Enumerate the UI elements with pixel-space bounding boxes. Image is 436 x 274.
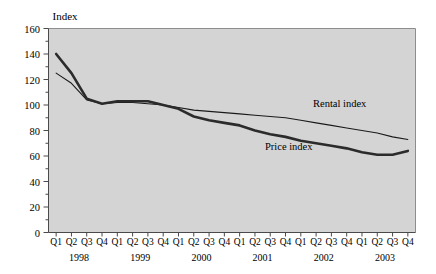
y-axis-tick-label: 160	[14, 23, 40, 34]
y-axis-tick-label: 20	[14, 202, 40, 213]
x-axis-quarter-label: Q1	[50, 237, 62, 247]
x-axis-quarter-label: Q3	[81, 237, 93, 247]
x-axis-quarter-label: Q3	[142, 237, 154, 247]
x-axis-quarter-label: Q4	[402, 237, 414, 247]
x-axis-quarter-label: Q1	[112, 237, 124, 247]
x-axis-quarter-label: Q2	[371, 237, 383, 247]
x-axis-quarter-label: Q2	[249, 237, 261, 247]
y-axis-ticks	[44, 29, 49, 233]
x-axis-quarter-label: Q3	[203, 237, 215, 247]
x-axis-quarter-label: Q4	[157, 237, 169, 247]
y-axis-tick-label: 100	[14, 100, 40, 111]
x-axis-quarter-label: Q4	[96, 237, 108, 247]
x-axis-quarter-label: Q2	[127, 237, 139, 247]
y-axis-tick-label: 60	[14, 151, 40, 162]
x-axis-quarter-label: Q1	[234, 237, 246, 247]
x-axis-quarter-label: Q2	[66, 237, 78, 247]
x-axis-quarter-label: Q4	[280, 237, 292, 247]
x-axis-quarter-label: Q2	[310, 237, 322, 247]
x-axis-year-label: 1999	[130, 252, 150, 263]
y-axis-tick-label: 80	[14, 125, 40, 136]
x-axis-quarter-label: Q3	[387, 237, 399, 247]
series-label-rental-index: Rental index	[313, 98, 366, 109]
x-axis-quarter-label: Q3	[264, 237, 276, 247]
x-axis-year-label: 2001	[253, 252, 273, 263]
x-axis-quarter-label: Q3	[326, 237, 338, 247]
x-axis-quarter-label: Q4	[341, 237, 353, 247]
x-axis-year-label: 2003	[375, 252, 395, 263]
line-chart-plot	[0, 0, 436, 274]
series-label-price-index: Price index	[265, 141, 313, 152]
x-axis-quarter-label: Q2	[188, 237, 200, 247]
x-axis-year-label: 1998	[69, 252, 89, 263]
x-axis-ticks	[56, 233, 408, 237]
x-axis-quarter-label: Q1	[356, 237, 368, 247]
x-axis-year-label: 2002	[314, 252, 334, 263]
y-axis-tick-label: 0	[14, 227, 40, 238]
x-axis-quarter-label: Q1	[295, 237, 307, 247]
y-axis-tick-label: 140	[14, 49, 40, 60]
x-axis-quarter-label: Q1	[173, 237, 185, 247]
x-axis-year-label: 2000	[191, 252, 211, 263]
y-axis-tick-label: 120	[14, 74, 40, 85]
y-axis-tick-label: 40	[14, 176, 40, 187]
x-axis-quarter-label: Q4	[219, 237, 231, 247]
chart-container: Index 020406080100120140160 Q1Q2Q3Q4Q1Q2…	[0, 0, 436, 274]
